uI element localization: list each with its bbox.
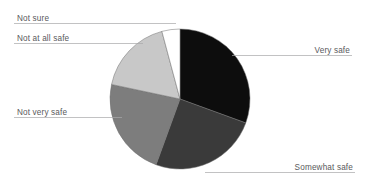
pie-label-not-at-all-safe: Not at all safe <box>17 34 70 43</box>
pie-chart-figure: Not sure Not at all safe Not very safe V… <box>0 0 367 193</box>
pie-label-not-very-safe: Not very safe <box>17 108 67 117</box>
pie-label-not-sure: Not sure <box>17 14 49 23</box>
pie-label-somewhat-safe: Somewhat safe <box>295 163 354 172</box>
pie-label-very-safe: Very safe <box>315 46 351 55</box>
pie-slices-group <box>110 29 250 169</box>
pie-chart-svg: Not sure Not at all safe Not very safe V… <box>0 0 367 193</box>
